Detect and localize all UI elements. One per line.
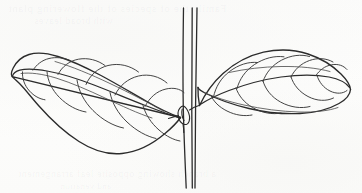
left-leaf-intramarginal-vein [21,73,152,118]
right-leaf-base-margin [198,88,200,106]
left-leaf-vein-upper-4 [115,75,167,95]
right-leaf-vein-upper-3 [263,55,310,81]
stem-line-left [183,8,186,188]
left-leaf-vein-upper-2 [58,59,105,75]
right-petiole [190,106,200,111]
botanical-drawing-figure: Family the of species of the flowering p… [0,0,362,193]
left-leaf-vein-upper-1 [33,58,70,71]
right-leaf-vein-upper-2 [237,56,284,88]
stem-line-middle [192,8,193,188]
right-leaf-vein-lower-4 [291,77,334,101]
stem-group [183,8,197,188]
left-leaf-blade-fold-line [55,62,164,112]
drawing-canvas [0,0,362,193]
left-leaf-group [11,53,184,154]
right-leaf-lower-margin [198,88,351,114]
right-leaf-group [198,50,351,116]
left-leaf-lower-margin [12,77,180,154]
stem-line-right [195,8,197,188]
right-leaf-vein-lower-3 [263,81,310,108]
right-leaf-blade-fold-line [229,66,330,72]
node-lower-fold [183,124,184,133]
left-leaf-vein-lower-1 [22,72,45,100]
